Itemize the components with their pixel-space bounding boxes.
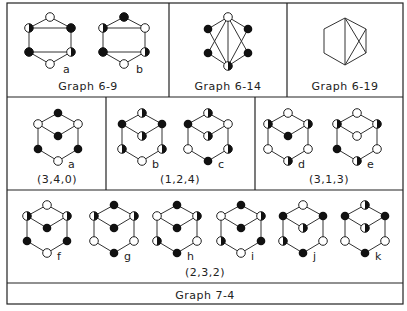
node-open-icon	[381, 237, 390, 246]
label-b: b	[136, 63, 143, 76]
cube-graph-k: k	[341, 201, 390, 263]
node-filled-icon	[158, 120, 167, 129]
node-half-icon	[217, 237, 226, 246]
graph-6-9-a	[25, 13, 76, 69]
node-filled-icon	[110, 201, 119, 210]
node-filled-icon	[118, 120, 127, 129]
node-half-icon	[158, 145, 167, 154]
node-open-icon	[237, 249, 246, 258]
node-filled-icon	[244, 25, 253, 34]
node-half-icon	[118, 145, 127, 154]
node-open-icon	[264, 145, 273, 154]
node-open-icon	[353, 109, 362, 118]
label-g: g	[124, 250, 131, 263]
graph-6-9-b	[99, 13, 150, 69]
label-c: c	[218, 158, 224, 171]
node-filled-icon	[54, 132, 63, 141]
node-filled-icon	[299, 249, 308, 258]
node-filled-icon	[173, 224, 182, 233]
cube-graph-j: j	[279, 201, 328, 263]
node-half-icon	[23, 212, 32, 221]
node-half-icon	[224, 62, 233, 71]
panel-graph-6-9: a b Graph 6-9	[25, 13, 150, 93]
node-open-icon	[46, 13, 55, 22]
node-half-icon	[284, 157, 293, 166]
node-half-icon	[138, 132, 147, 141]
node-half-icon	[257, 212, 266, 221]
label-e: e	[367, 158, 374, 171]
node-open-icon	[299, 201, 308, 210]
node-filled-icon	[63, 237, 72, 246]
cube-graph-g: g	[90, 201, 139, 263]
node-filled-icon	[381, 212, 390, 221]
cube-graph-b: b	[118, 109, 167, 171]
caption-3-1-3: (3,1,3)	[309, 173, 349, 186]
node-half-icon	[204, 132, 213, 141]
cube-graph-h: h	[153, 201, 202, 263]
node-half-icon	[99, 24, 108, 33]
node-filled-icon	[204, 49, 213, 58]
node-open-icon	[224, 120, 233, 129]
cube-graph-f: f	[23, 201, 72, 263]
node-filled-icon	[237, 201, 246, 210]
panel-graph-6-14: Graph 6-14	[194, 13, 261, 93]
panel-graph-6-19: Graph 6-19	[311, 18, 378, 93]
node-half-icon	[193, 212, 202, 221]
label-d: d	[298, 158, 305, 171]
caption-graph-6-14: Graph 6-14	[194, 80, 261, 93]
node-open-icon	[304, 145, 313, 154]
node-filled-icon	[204, 25, 213, 34]
node-open-icon	[46, 60, 55, 69]
node-open-icon	[373, 145, 382, 154]
node-half-icon	[67, 48, 76, 57]
label-a: a	[63, 63, 70, 76]
node-half-icon	[279, 237, 288, 246]
node-half-icon	[299, 224, 308, 233]
node-filled-icon	[34, 145, 43, 154]
node-open-icon	[319, 237, 328, 246]
label-b: b	[152, 158, 159, 171]
node-half-icon	[353, 157, 362, 166]
cube-graph-a: a	[34, 109, 83, 171]
node-filled-icon	[333, 145, 342, 154]
node-half-icon	[25, 24, 34, 33]
node-open-icon	[34, 120, 43, 129]
caption-graph-7-4: Graph 7-4	[175, 289, 235, 302]
node-half-icon	[204, 109, 213, 118]
node-filled-icon	[120, 13, 129, 22]
node-filled-icon	[110, 249, 119, 258]
node-open-icon	[341, 237, 350, 246]
node-open-icon	[120, 60, 129, 69]
node-filled-icon	[361, 249, 370, 258]
node-filled-icon	[204, 157, 213, 166]
node-filled-icon	[284, 132, 293, 141]
node-open-icon	[90, 237, 99, 246]
cube-graph-i: i	[217, 201, 266, 263]
node-filled-icon	[184, 120, 193, 129]
node-open-icon	[217, 212, 226, 221]
node-open-icon	[153, 212, 162, 221]
node-half-icon	[224, 145, 233, 154]
graph-figure: a b Graph 6-9	[0, 0, 407, 311]
node-filled-icon	[319, 212, 328, 221]
cube-graph-c: c	[184, 109, 233, 171]
node-filled-icon	[54, 109, 63, 118]
node-open-icon	[284, 109, 293, 118]
node-half-icon	[361, 201, 370, 210]
node-open-icon	[353, 132, 362, 141]
node-half-icon	[333, 120, 342, 129]
caption-3-4-0: (3,4,0)	[37, 173, 77, 186]
node-open-icon	[224, 13, 233, 22]
node-filled-icon	[25, 48, 34, 57]
node-open-icon	[193, 237, 202, 246]
node-half-icon	[361, 224, 370, 233]
node-filled-icon	[23, 237, 32, 246]
label-k: k	[375, 250, 382, 263]
node-open-icon	[43, 249, 52, 258]
node-half-icon	[153, 237, 162, 246]
label-i: i	[251, 250, 254, 263]
node-filled-icon	[244, 49, 253, 58]
node-filled-icon	[99, 48, 108, 57]
label-h: h	[187, 250, 194, 263]
node-filled-icon	[173, 249, 182, 258]
